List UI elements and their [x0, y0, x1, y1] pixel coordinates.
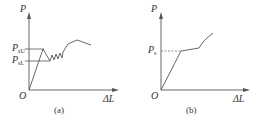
panel-a-load-elongation-diagram: P PsU PsL O ΔL (a): [0, 0, 131, 126]
panel-b-caption: (b): [186, 106, 197, 115]
panel-b-load-elongation-diagram: P Ps O ΔL (b): [131, 0, 262, 126]
yield-label: Ps: [148, 45, 156, 56]
y-axis-label: P: [20, 4, 26, 14]
y-axis-arrow-icon: [159, 12, 163, 19]
panel-b-plot: [131, 0, 262, 126]
x-axis-label: ΔL: [103, 94, 114, 104]
origin-label: O: [151, 91, 158, 101]
y-axis-label: P: [151, 4, 157, 14]
x-axis-label: ΔL: [233, 94, 244, 104]
load-elongation-curve: [29, 40, 91, 90]
load-elongation-curve: [161, 33, 213, 90]
upper-yield-label: PsU: [12, 43, 25, 54]
origin-label: O: [19, 91, 26, 101]
y-axis-arrow-icon: [27, 12, 31, 19]
lower-yield-label: PsL: [12, 55, 24, 66]
x-axis-arrow-icon: [112, 88, 119, 92]
panel-a-caption: (a): [54, 106, 64, 115]
x-axis-arrow-icon: [243, 88, 250, 92]
